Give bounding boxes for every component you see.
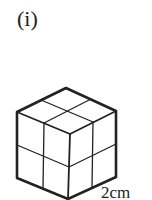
- top-grid-2: [44, 99, 91, 123]
- cube-diagram: [0, 0, 152, 200]
- dimension-label: 2cm: [101, 184, 130, 200]
